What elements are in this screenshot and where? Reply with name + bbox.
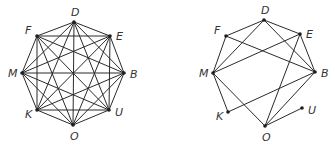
node-b: [313, 70, 317, 74]
node-label-u: U: [115, 106, 123, 119]
node-d: [262, 18, 266, 22]
edge-d-e: [74, 22, 110, 36]
subgraph: DEBUOKMF: [199, 4, 329, 144]
node-label-k: K: [216, 110, 224, 123]
node-label-d: D: [261, 4, 269, 17]
edge-b-o: [265, 72, 315, 126]
node-label-e: E: [306, 28, 313, 41]
edge-d-m: [213, 20, 264, 73]
node-m: [211, 71, 215, 75]
node-b: [122, 71, 126, 75]
node-u: [300, 106, 304, 110]
edge-f-m: [213, 36, 226, 73]
node-o: [71, 123, 75, 127]
node-u: [107, 108, 111, 112]
node-label-k: K: [25, 108, 33, 121]
node-e: [298, 32, 302, 36]
edge-m-k: [213, 73, 228, 112]
node-f: [35, 34, 39, 38]
node-label-b: B: [130, 68, 138, 81]
node-label-o: O: [262, 131, 271, 144]
node-label-u: U: [308, 104, 316, 117]
node-label-m: M: [199, 67, 209, 80]
edge-f-b: [226, 36, 315, 72]
node-label-o: O: [70, 130, 79, 143]
node-label-f: F: [25, 24, 32, 37]
node-d: [72, 20, 76, 24]
node-label-f: F: [214, 24, 221, 37]
edge-d-e: [264, 20, 300, 34]
node-m: [20, 71, 24, 75]
node-e: [108, 34, 112, 38]
node-k: [226, 110, 230, 114]
node-label-b: B: [321, 67, 329, 80]
node-label-m: M: [8, 67, 18, 80]
complete-graph: DEBUOKMF: [8, 6, 138, 143]
edge-d-u: [74, 22, 109, 110]
node-label-e: E: [116, 30, 123, 43]
node-f: [224, 34, 228, 38]
edge-b-k: [228, 72, 315, 112]
graph-diagram: DEBUOKMFDEBUOKMF: [0, 0, 332, 145]
node-k: [35, 108, 39, 112]
node-label-d: D: [71, 6, 79, 19]
node-o: [263, 124, 267, 128]
edge-f-d: [226, 20, 264, 36]
edge-d-f: [37, 22, 74, 36]
